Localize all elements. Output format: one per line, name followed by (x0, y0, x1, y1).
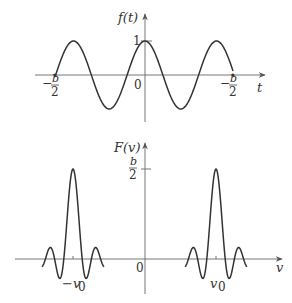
sinc-right-curve (185, 169, 247, 279)
v0-label: v 0 (210, 276, 226, 294)
left-tick-label: − b 2 (42, 72, 59, 99)
ytick-1-label: 1 (133, 34, 141, 48)
svg-text:b: b (230, 72, 237, 85)
svg-text:2: 2 (51, 85, 59, 99)
svg-text:b: b (52, 72, 59, 85)
sinc-left-curve (42, 169, 104, 279)
origin-label-bottom: 0 (136, 261, 144, 275)
svg-text:0: 0 (78, 280, 86, 294)
v-axis-label: v (276, 260, 284, 275)
origin-label: 0 (134, 78, 142, 92)
neg-v0-label: −v 0 (62, 276, 86, 294)
svg-text:2: 2 (229, 85, 237, 99)
svg-text:2: 2 (129, 168, 137, 182)
top-plot: f(t) t 0 1 − b 2 − b 2 (35, 10, 265, 122)
right-tick-label: − b 2 (220, 72, 237, 99)
F-axis-label: F(v) (113, 140, 141, 155)
fourier-diagram: f(t) t 0 1 − b 2 − b 2 F(v) v 0 b 2 (0, 0, 292, 303)
f-axis-label: f(t) (117, 10, 138, 25)
svg-text:b: b (130, 155, 137, 168)
bottom-plot: F(v) v 0 b 2 −v 0 v 0 (15, 140, 284, 294)
ytick-b2-label: b 2 (129, 155, 137, 182)
svg-text:v: v (210, 276, 218, 291)
t-axis-label: t (257, 80, 263, 95)
svg-text:0: 0 (218, 280, 226, 294)
